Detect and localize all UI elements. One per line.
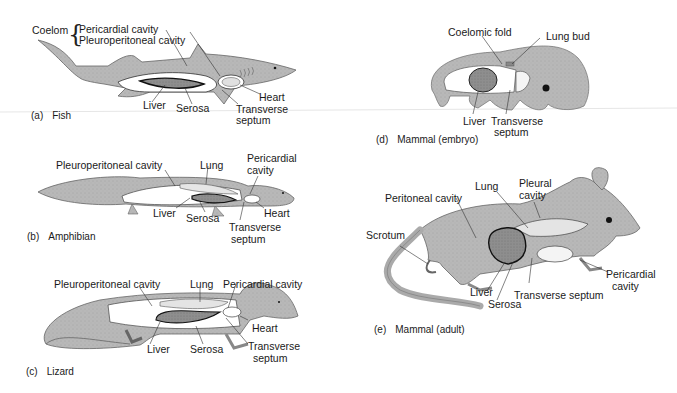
- figure-coelom-vertebrates: Coelom { Pericardial cavity Pleuroperito…: [0, 0, 677, 393]
- label-pericardial: Pericardial: [247, 153, 297, 164]
- label-septum: septum: [231, 234, 265, 245]
- caption-e: (e)Mammal (adult): [374, 324, 465, 335]
- label-septum: septum: [236, 115, 270, 126]
- label-cavity: cavity: [612, 281, 639, 292]
- rat-illustration: [387, 168, 640, 306]
- label-pleuroperitoneal-cavity: Pleuroperitoneal cavity: [56, 160, 162, 171]
- label-serosa: Serosa: [190, 344, 223, 355]
- label-lung-bud: Lung bud: [546, 31, 590, 42]
- label-cavity: cavity: [247, 165, 274, 176]
- label-liver: Liver: [143, 100, 166, 111]
- caption-a: (a)Fish: [31, 110, 71, 121]
- label-scrotum: Scrotum: [366, 230, 405, 241]
- label-transverse: Transverse: [248, 341, 300, 352]
- caption-d: (d)Mammal (embryo): [376, 134, 478, 145]
- label-coelom: Coelom: [32, 25, 68, 36]
- label-lung: Lung: [200, 160, 223, 171]
- label-heart: Heart: [259, 92, 285, 103]
- label-transverse: Transverse: [229, 222, 281, 233]
- label-septum: septum: [494, 127, 528, 138]
- label-serosa: Serosa: [186, 213, 219, 224]
- label-serosa: Serosa: [488, 299, 521, 310]
- label-septum: septum: [253, 353, 287, 364]
- lizard-illustration: [44, 283, 298, 349]
- label-heart: Heart: [264, 208, 290, 219]
- label-lung: Lung: [190, 279, 213, 290]
- label-pleuroperitoneal-cavity: Pleuroperitoneal cavity: [54, 279, 160, 290]
- label-pericardial: Pericardial: [606, 269, 656, 280]
- caption-b: (b)Amphibian: [27, 231, 96, 242]
- label-liver: Liver: [463, 116, 486, 127]
- caption-c: (c)Lizard: [26, 366, 74, 377]
- label-liver: Liver: [153, 208, 176, 219]
- label-peritoneal-cavity: Peritoneal cavity: [385, 193, 462, 204]
- label-liver: Liver: [147, 344, 170, 355]
- label-lung: Lung: [475, 181, 498, 192]
- label-pleuroperitoneal-cavity: Pleuroperitoneal cavity: [79, 35, 185, 46]
- label-cavity: cavity: [519, 190, 546, 201]
- embryo-illustration: [431, 36, 588, 114]
- label-transverse-septum: Transverse septum: [514, 290, 603, 301]
- label-coelomic-fold: Coelomic fold: [448, 27, 512, 38]
- diagram-artwork: [0, 0, 677, 393]
- label-pleural: Pleural: [519, 178, 552, 189]
- label-serosa: Serosa: [176, 103, 209, 114]
- label-pericardial-cavity: Pericardial cavity: [223, 279, 302, 290]
- label-heart: Heart: [252, 323, 278, 334]
- label-liver: Liver: [470, 287, 493, 298]
